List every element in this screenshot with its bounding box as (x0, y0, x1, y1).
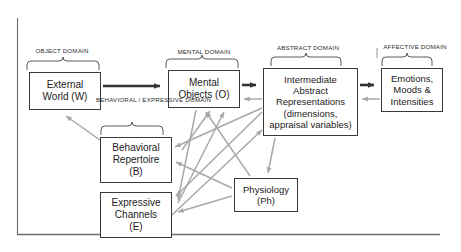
node-expressive-line1: Expressive (112, 197, 161, 209)
arrow-abstract-to-physiology (268, 138, 275, 173)
node-emotions-line1: Emotions, (391, 73, 433, 84)
node-emotions-line3: Intensities (391, 96, 434, 107)
label-behavioral-line3: DOMAIN (185, 96, 211, 103)
node-expressive-channels: Expressive Channels (E) (100, 192, 172, 238)
label-affective-domain: AFFECTIVE DOMAIN (374, 43, 456, 52)
node-emotions-line2: Moods & (393, 84, 431, 95)
arrow-behavioral-to-mental (182, 111, 210, 150)
node-external-world-line2: World (W) (43, 91, 88, 103)
label-abstract-domain: ABSTRACT DOMAIN (256, 44, 360, 53)
node-behavioral-repertoire: Behavioral Repertoire (B) (100, 137, 172, 183)
arrow-expressive-to-mental (178, 112, 224, 203)
node-physiology: Physiology (Ph) (234, 178, 298, 212)
node-behavioral-line3: (B) (129, 166, 142, 178)
node-behavioral-line2: Repertoire (113, 154, 160, 166)
label-behavioral-line2: EXPRESSIVE (142, 96, 183, 103)
arrow-physiology-to-expressive (178, 196, 232, 212)
brace-object-domain (27, 57, 99, 70)
node-emotions: Emotions, Moods & Intensities (381, 68, 443, 112)
node-mental-objects-line1: Mental (189, 77, 219, 89)
node-abstract-line1: Intermediate (284, 74, 337, 85)
node-abstract-representations: Intermediate Abstract Representations (d… (263, 68, 358, 136)
node-abstract-line5: appraisal variables) (269, 119, 351, 130)
node-external-world: External World (W) (29, 72, 101, 110)
label-behavioral-expressive-domain: BEHAVIORAL / EXPRESSIVE DOMAIN (96, 96, 178, 105)
node-behavioral-line1: Behavioral (112, 142, 159, 154)
node-expressive-line3: (E) (129, 221, 142, 233)
label-object-domain: OBJECT DOMAIN (26, 47, 98, 56)
node-external-world-line1: External (47, 79, 84, 91)
node-abstract-line2: Abstract (293, 85, 328, 96)
node-physiology-line1: Physiology (243, 184, 289, 195)
node-abstract-line3: Representations (276, 96, 345, 107)
label-behavioral-line1: BEHAVIORAL / (96, 96, 140, 103)
diagram-canvas: OBJECT DOMAIN MENTAL DOMAIN ABSTRACT DOM… (0, 0, 461, 252)
node-physiology-line2: (Ph) (257, 195, 275, 206)
node-abstract-line4: (dimensions, (284, 108, 338, 119)
label-mental-domain: MENTAL DOMAIN (163, 48, 245, 57)
brace-affective-domain (382, 53, 432, 66)
node-expressive-line2: Channels (115, 209, 157, 221)
diagram-vector-layer (0, 0, 461, 252)
brace-abstract-domain (271, 53, 341, 66)
brace-behavioral-domain (101, 122, 163, 135)
arrow-behavioral-to-world (66, 116, 100, 140)
arrow-physiology-to-mental (206, 112, 250, 176)
